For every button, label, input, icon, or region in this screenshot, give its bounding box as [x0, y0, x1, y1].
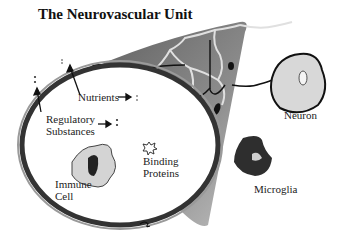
label-binding-line2: Proteins — [143, 167, 179, 179]
label-microglia: Microglia — [254, 183, 297, 195]
label-immune-line1: Immune — [55, 178, 92, 190]
label-binding-line1: Binding — [143, 155, 178, 167]
blood-vessel-wall — [22, 65, 218, 225]
label-regulatory-line2: Substances — [46, 125, 95, 137]
label-nutrients: Nutrients — [78, 91, 119, 103]
label-regulatory-line1: Regulatory — [46, 113, 95, 125]
neuron-nucleus — [299, 71, 307, 85]
cell-body-dark — [228, 62, 234, 70]
neuron-body — [271, 54, 325, 113]
label-immune-line2: Cell — [55, 190, 73, 202]
label-neuron: Neuron — [284, 109, 317, 121]
diagram-title: The Neurovascular Unit — [38, 6, 192, 23]
